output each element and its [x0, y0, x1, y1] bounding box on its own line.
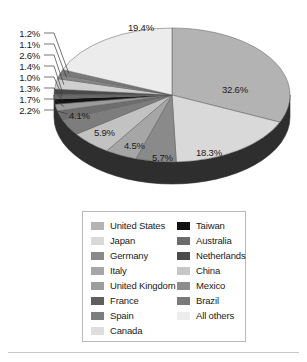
legend-label: All others [196, 310, 234, 321]
legend-label: United Kingdom [110, 280, 176, 291]
legend-label: Netherlands [196, 250, 246, 261]
legend-color-swatch [177, 297, 190, 305]
callout-percentage-label: 1.1% [6, 39, 40, 50]
pie-chart-figure: 32.6%19.4%18.3%5.7%4.5%5.9%4.1% 1.2%1.1%… [0, 0, 307, 362]
legend-item[interactable]: Netherlands [177, 248, 246, 263]
legend-color-swatch [91, 327, 104, 335]
legend-color-swatch [177, 282, 190, 290]
legend-item[interactable]: United Kingdom [91, 278, 175, 293]
legend-color-swatch [177, 267, 190, 275]
legend-label: Germany [110, 250, 148, 261]
legend-label: Brazil [196, 295, 219, 306]
legend-item[interactable]: Canada [91, 323, 175, 338]
legend-color-swatch [91, 312, 104, 320]
slice-percentage-label: 32.6% [222, 84, 248, 95]
legend-color-swatch [91, 297, 104, 305]
legend-item[interactable]: Taiwan [177, 218, 246, 233]
legend-item[interactable]: All others [177, 308, 246, 323]
callout-percentage-label: 2.6% [6, 50, 40, 61]
legend-label: Taiwan [196, 220, 225, 231]
chart-area: 32.6%19.4%18.3%5.7%4.5%5.9%4.1% 1.2%1.1%… [0, 0, 307, 205]
legend-item[interactable]: France [91, 293, 175, 308]
legend-color-swatch [91, 237, 104, 245]
slice-percentage-label: 4.1% [69, 110, 90, 121]
pie-slices [54, 28, 290, 162]
slice-percentage-label: 18.3% [196, 147, 222, 158]
callout-percentage-label: 2.2% [6, 105, 40, 116]
legend-label: France [110, 295, 139, 306]
legend-color-swatch [177, 237, 190, 245]
legend-column: TaiwanAustraliaNetherlandsChinaMexicoBra… [175, 218, 246, 341]
legend-color-swatch [177, 252, 190, 260]
legend-label: Italy [110, 265, 127, 276]
footer-divider [8, 352, 299, 353]
legend-item[interactable]: Germany [91, 248, 175, 263]
legend-color-swatch [177, 222, 190, 230]
legend-item[interactable]: Italy [91, 263, 175, 278]
legend-columns: United StatesJapanGermanyItalyUnited Kin… [83, 212, 245, 341]
slice-percentage-label: 4.5% [124, 140, 145, 151]
callout-percentage-label: 1.7% [6, 94, 40, 105]
slice-percentage-label: 5.9% [94, 127, 115, 138]
callout-percentage-label: 1.3% [6, 83, 40, 94]
legend-color-swatch [91, 252, 104, 260]
legend-item[interactable]: Brazil [177, 293, 246, 308]
legend-color-swatch [91, 222, 104, 230]
legend-item[interactable]: China [177, 263, 246, 278]
legend-item[interactable]: Australia [177, 233, 246, 248]
legend-color-swatch [91, 282, 104, 290]
callout-percentage-label: 1.4% [6, 61, 40, 72]
legend-column: United StatesJapanGermanyItalyUnited Kin… [83, 218, 175, 341]
legend-item[interactable]: United States [91, 218, 175, 233]
slice-percentage-label: 5.7% [152, 152, 173, 163]
legend-label: Canada [110, 325, 142, 336]
slice-percentage-label: 19.4% [128, 22, 154, 33]
legend-label: China [196, 265, 220, 276]
legend-item[interactable]: Mexico [177, 278, 246, 293]
legend-item[interactable]: Japan [91, 233, 175, 248]
legend-label: Australia [196, 235, 232, 246]
legend-label: Spain [110, 310, 134, 321]
legend-item[interactable]: Spain [91, 308, 175, 323]
legend-color-swatch [91, 267, 104, 275]
legend-label: United States [110, 220, 165, 231]
legend-label: Mexico [196, 280, 225, 291]
callout-percentage-label: 1.2% [6, 28, 40, 39]
callout-percentage-label: 1.0% [6, 72, 40, 83]
legend-label: Japan [110, 235, 135, 246]
legend-color-swatch [177, 312, 190, 320]
chart-legend: United StatesJapanGermanyItalyUnited Kin… [82, 211, 246, 342]
